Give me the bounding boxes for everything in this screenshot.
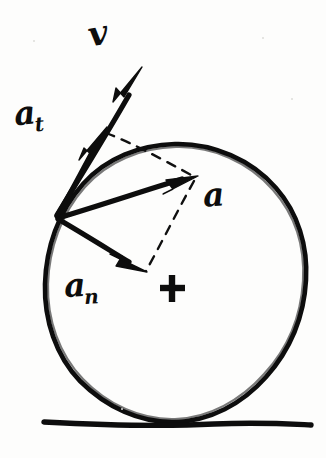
normal-acceleration-label: an [63,267,101,302]
normal-acceleration-arrowhead [110,254,147,272]
tangential-acceleration-label-sub: t [33,112,45,137]
tangential-acceleration-label: at [12,94,46,130]
diagram-canvas [0,0,326,458]
construction-line-normal [146,181,194,271]
normal-acceleration-label-sub: n [83,284,99,309]
resultant-acceleration-label-text: a [202,174,226,214]
paper-speck [121,408,123,410]
resultant-acceleration-label: a [202,177,226,211]
paper-speck [291,98,293,100]
paper-speck [262,37,264,39]
paper-speck [33,40,35,42]
construction-line-tangential [106,133,193,176]
hand-drawn-physics-diagram: v at an a [0,0,326,458]
center-cross-mark [160,275,185,302]
